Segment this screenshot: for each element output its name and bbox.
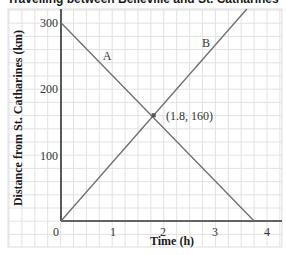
line-a [61, 23, 254, 221]
y-axis-label: Distance from St. Catharines (km) [11, 30, 25, 206]
distance-time-chart: Travelling between Belleville and St. Ca… [0, 0, 286, 255]
grid [8, 9, 282, 247]
line-b-label: B [202, 36, 210, 50]
intersection-label: (1.8, 160) [166, 109, 213, 123]
y-tick-100: 100 [40, 149, 58, 163]
x-tick-1: 1 [110, 225, 116, 239]
x-tick-3: 3 [212, 225, 218, 239]
x-tick-0: 0 [53, 225, 59, 239]
y-tick-200: 200 [40, 82, 58, 96]
intersection-marker [152, 113, 156, 117]
x-axis-label: Time (h) [150, 234, 194, 248]
chart-title: Travelling between Belleville and St. Ca… [7, 0, 279, 6]
y-tick-300: 300 [40, 16, 58, 30]
x-tick-4: 4 [264, 225, 270, 239]
line-a-label: A [103, 49, 112, 63]
